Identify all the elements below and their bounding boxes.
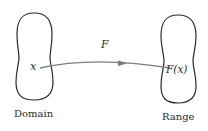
range-caption: Range bbox=[162, 111, 194, 122]
mapping-arrow bbox=[40, 62, 170, 68]
domain-caption: Domain bbox=[14, 108, 53, 119]
domain-point-label: x bbox=[30, 60, 36, 73]
range-set-shape bbox=[161, 15, 196, 103]
arrowhead-icon bbox=[118, 60, 127, 66]
domain-set-shape bbox=[16, 13, 53, 100]
mapping-label: F bbox=[101, 38, 109, 51]
range-point-label: F(x) bbox=[166, 63, 187, 75]
